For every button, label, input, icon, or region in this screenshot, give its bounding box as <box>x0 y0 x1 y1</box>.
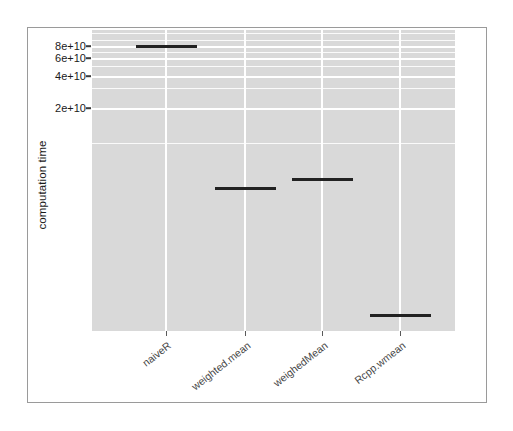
x-tick-label-weighedMean: weighedMean <box>270 339 329 389</box>
y-tick-label-4e10: 4e+10 <box>26 70 86 82</box>
y-tick-label-8e10: 8e+10 <box>26 40 86 52</box>
y-tick-mark-8e10 <box>86 45 91 47</box>
gridline-vertical-naiveR <box>165 30 167 331</box>
y-tick-label-6e10: 6e+10 <box>26 52 86 64</box>
plot-panel <box>92 30 455 331</box>
crossbar-weighted-mean <box>215 187 276 190</box>
y-axis-tick-labels: 8e+10 6e+10 4e+10 2e+10 <box>20 30 86 331</box>
x-tick-label-Rcpp-wmean: Rcpp.wmean <box>352 339 408 386</box>
gridline-vertical-weighted-mean <box>244 30 246 331</box>
x-axis-tick-labels: naiveR weighted.mean weighedMean Rcpp.wm… <box>0 331 487 403</box>
gridline-vertical-Rcpp-wmean <box>399 30 401 331</box>
crossbar-Rcpp-wmean <box>370 314 431 317</box>
y-tick-label-2e10: 2e+10 <box>26 102 86 114</box>
y-tick-mark-4e10 <box>86 75 91 77</box>
y-tick-mark-2e10 <box>86 107 91 109</box>
y-tick-mark-6e10 <box>86 57 91 59</box>
benchmark-chart-figure: computation time 8e+10 6e+10 4e+10 2e+10 <box>0 0 513 431</box>
x-tick-label-weighted-mean: weighted.mean <box>189 339 253 392</box>
crossbar-weighedMean <box>292 178 353 181</box>
x-tick-label-naiveR: naiveR <box>140 339 173 369</box>
crossbar-naiveR <box>136 45 197 48</box>
